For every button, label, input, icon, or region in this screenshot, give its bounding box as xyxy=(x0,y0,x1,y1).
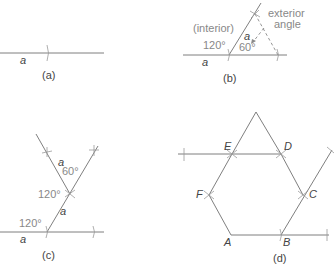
vertex-label-b: B xyxy=(283,236,290,248)
side-label: a xyxy=(20,54,26,66)
side-cd xyxy=(281,154,303,195)
left-slant-line xyxy=(36,134,70,194)
vertex-label-a: A xyxy=(223,236,231,248)
side-e-apex xyxy=(232,112,256,154)
interior-label: (interior) xyxy=(193,22,234,34)
middle-angle: 120° xyxy=(38,188,61,200)
side-fa xyxy=(209,195,231,235)
vertex-label-f: F xyxy=(196,188,204,200)
panel-d: E D F C A B (d) xyxy=(178,112,334,264)
lower-side-label: a xyxy=(60,205,66,217)
base-side-label: a xyxy=(20,233,26,245)
cross-tick-f xyxy=(204,191,214,199)
caption-c: (c) xyxy=(42,249,55,261)
exterior-label-2: angle xyxy=(274,18,301,30)
base-side-label: a xyxy=(202,56,208,68)
caption-d: (d) xyxy=(273,252,286,264)
caption-b: (b) xyxy=(223,72,236,84)
caption-a: (a) xyxy=(42,69,55,81)
cross-tick-upper-left xyxy=(42,147,52,157)
cross-tick-apex xyxy=(250,10,260,18)
panel-c: a 60° 120° a 120° a (c) xyxy=(0,134,104,261)
cross-tick-middle xyxy=(65,190,75,198)
lower-angle: 120° xyxy=(19,217,42,229)
panel-b: (interior) 120° a 60° exterior angle a (… xyxy=(183,3,305,84)
side-ef xyxy=(209,154,232,195)
exterior-angle-value: 60° xyxy=(239,41,256,53)
hexagon-construction-diagram: a (a) (interior) 120° a 60° exterior ang… xyxy=(0,0,334,268)
interior-angle: 120° xyxy=(203,39,226,51)
vertex-label-d: D xyxy=(284,140,292,152)
panel-a: a (a) xyxy=(0,45,104,81)
vertex-label-c: C xyxy=(309,188,317,200)
upper-angle: 60° xyxy=(62,165,79,177)
exterior-arrow-line xyxy=(253,28,264,42)
vertex-label-e: E xyxy=(224,140,232,152)
side-d-apex xyxy=(256,112,281,154)
